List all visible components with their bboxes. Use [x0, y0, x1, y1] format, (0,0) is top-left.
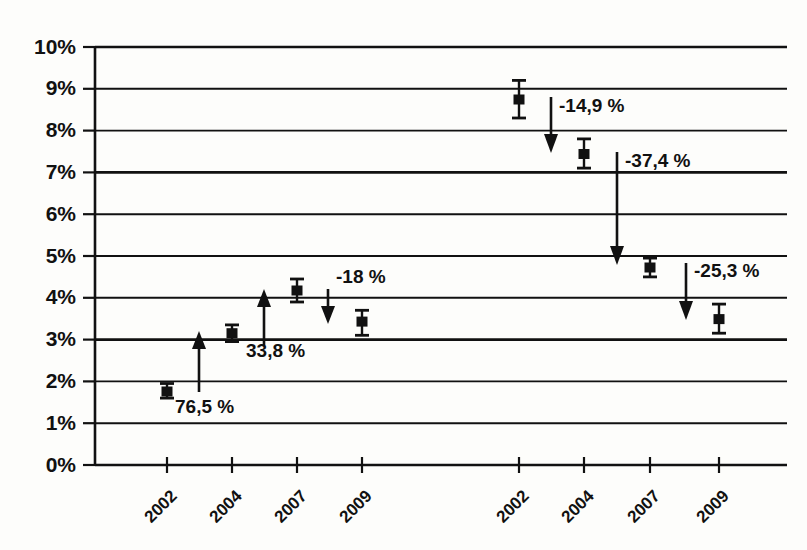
x-axis-labels-left-group: 2002 2004 2007 2009 [141, 486, 376, 527]
marker-square [292, 286, 303, 296]
data-point-right-2002 [512, 80, 526, 118]
y-label-1: 1% [46, 411, 77, 434]
annotation-label-14-9: -14,9 % [559, 95, 625, 116]
y-label-4: 4% [46, 285, 77, 308]
arrow-head-down-icon [544, 134, 558, 153]
annotation-arrow-18 [321, 289, 335, 324]
x-label-left-2002: 2002 [141, 486, 181, 526]
data-points-right-group [512, 80, 726, 333]
chart-plot: 10% 9% 8% 7% 6% 5% 4% 3% 2% 1% 0% 2002 2… [0, 0, 807, 550]
y-axis-ticks [83, 47, 95, 465]
marker-square [357, 317, 368, 327]
x-label-right-2009: 2009 [693, 486, 733, 526]
annotation-arrow-25-3 [679, 263, 693, 320]
marker-square [645, 263, 656, 273]
data-point-right-2009 [712, 304, 726, 333]
x-label-left-2004: 2004 [206, 486, 247, 527]
y-axis-labels: 10% 9% 8% 7% 6% 5% 4% 3% 2% 1% 0% [34, 35, 76, 476]
annotation-label-76-5: 76,5 % [175, 396, 234, 417]
x-axis-labels-right-group: 2002 2004 2007 2009 [493, 486, 733, 527]
marker-square [227, 328, 238, 338]
data-point-left-2002 [160, 384, 174, 399]
marker-square [579, 149, 590, 159]
x-label-left-2007: 2007 [271, 486, 311, 526]
data-point-right-2007 [643, 258, 657, 277]
annotation-arrow-37-4 [610, 152, 624, 265]
x-label-right-2002: 2002 [493, 486, 533, 526]
y-label-2: 2% [46, 369, 77, 392]
x-label-right-2004: 2004 [558, 486, 599, 527]
marker-square [514, 95, 525, 105]
y-label-6: 6% [46, 202, 77, 225]
annotation-label-18: -18 % [336, 266, 386, 287]
annotation-label-25-3: -25,3 % [694, 260, 760, 281]
arrow-head-down-icon [321, 306, 335, 324]
data-point-left-2009 [355, 310, 369, 335]
y-label-0: 0% [46, 453, 77, 476]
annotation-label-37-4: -37,4 % [625, 150, 691, 171]
y-label-8: 8% [46, 118, 77, 141]
x-label-right-2007: 2007 [624, 486, 664, 526]
marker-square [714, 314, 725, 324]
y-label-7: 7% [46, 160, 77, 183]
y-label-9: 9% [46, 76, 77, 99]
arrow-head-down-icon [679, 301, 693, 320]
y-label-5: 5% [46, 244, 77, 267]
y-label-10: 10% [34, 35, 76, 58]
y-label-3: 3% [46, 327, 77, 350]
marker-square [162, 387, 173, 397]
annotation-label-33-8: 33,8 % [246, 340, 305, 361]
annotation-arrow-14-9 [544, 97, 558, 153]
data-point-right-2004 [577, 139, 591, 168]
x-label-left-2009: 2009 [336, 486, 376, 526]
chart-container: 10% 9% 8% 7% 6% 5% 4% 3% 2% 1% 0% 2002 2… [0, 0, 807, 550]
